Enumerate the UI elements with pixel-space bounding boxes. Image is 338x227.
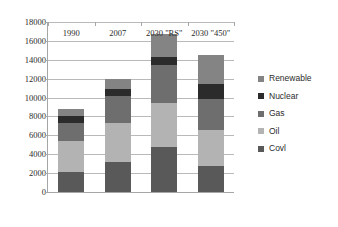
bar-segment-nuclear: [105, 89, 131, 96]
x-tick-mark: [95, 22, 96, 26]
legend-label: Oil: [269, 127, 279, 136]
x-tick-mark: [141, 22, 142, 26]
bar-segment-oil: [105, 123, 131, 162]
legend-swatch-nuclear: [258, 93, 264, 99]
x-tick-label: 2030 "450": [191, 29, 230, 38]
bar-segment-nuclear: [151, 57, 177, 66]
plot-area: 199020072030 "RS"2030 "450": [47, 22, 234, 193]
y-tick-label: 18000: [0, 18, 46, 27]
y-tick-label: 10000: [0, 93, 46, 102]
legend-label: Nuclear: [269, 92, 298, 101]
legend-label: Covl: [269, 144, 286, 153]
bar-segment-covl: [151, 147, 177, 192]
x-tick-label: 2007: [109, 29, 126, 38]
y-tick-label: 0: [0, 188, 46, 197]
y-tick-mark: [45, 116, 48, 117]
x-tick-label: 2030 "RS": [146, 29, 182, 38]
bar-segment-renewable: [105, 79, 131, 89]
y-tick-mark: [45, 41, 48, 42]
y-tick-mark: [45, 60, 48, 61]
bar-segment-oil: [58, 141, 84, 172]
y-tick-mark: [45, 135, 48, 136]
y-tick-mark: [45, 173, 48, 174]
legend-label: Gas: [269, 109, 285, 118]
bar-segment-oil: [151, 103, 177, 147]
y-tick-mark: [45, 154, 48, 155]
y-tick-label: 2000: [0, 169, 46, 178]
legend-swatch-renewable: [258, 76, 264, 82]
bar-segment-covl: [58, 172, 84, 192]
y-tick-label: 14000: [0, 56, 46, 65]
bar-3: [151, 34, 177, 192]
x-tick-mark: [48, 22, 49, 26]
x-tick-mark: [188, 22, 189, 26]
bar-segment-gas: [151, 65, 177, 103]
bar-segment-covl: [105, 162, 131, 192]
stacked-bar-chart: 0200040006000800010000120001400016000180…: [0, 0, 338, 227]
legend-item-oil: Oil: [258, 127, 312, 136]
legend-item-covl: Covl: [258, 144, 312, 153]
legend-swatch-covl: [258, 146, 264, 152]
legend-item-nuclear: Nuclear: [258, 92, 312, 101]
bar-2: [105, 79, 131, 192]
x-tick-mark: [234, 22, 235, 26]
y-tick-label: 12000: [0, 74, 46, 83]
legend-label: Renewable: [269, 74, 312, 83]
legend-item-gas: Gas: [258, 109, 312, 118]
y-tick-mark: [45, 98, 48, 99]
legend-swatch-oil: [258, 128, 264, 134]
legend-item-renewable: Renewable: [258, 74, 312, 83]
bar-segment-nuclear: [198, 84, 224, 99]
bar-segment-covl: [198, 166, 224, 192]
y-tick-label: 16000: [0, 37, 46, 46]
y-tick-mark: [45, 192, 48, 193]
bar-1: [58, 109, 84, 192]
y-tick-label: 8000: [0, 112, 46, 121]
bar-segment-oil: [198, 130, 224, 166]
bar-segment-gas: [58, 123, 84, 141]
bar-segment-gas: [105, 96, 131, 123]
bar-segment-renewable: [58, 109, 84, 116]
y-tick-label: 6000: [0, 131, 46, 140]
bar-segment-gas: [198, 99, 224, 129]
x-tick-label: 1990: [63, 29, 80, 38]
y-tick-mark: [45, 79, 48, 80]
bar-segment-nuclear: [58, 116, 84, 123]
y-tick-label: 4000: [0, 150, 46, 159]
legend-swatch-gas: [258, 111, 264, 117]
legend: RenewableNuclearGasOilCovl: [258, 74, 312, 153]
bar-4: [198, 55, 224, 192]
gridline: [48, 41, 234, 42]
bar-segment-renewable: [198, 55, 224, 84]
